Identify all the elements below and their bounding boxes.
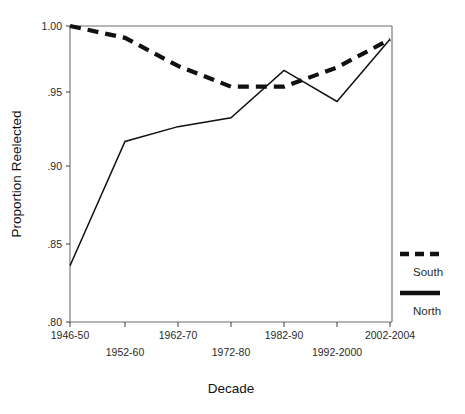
y-tick-label-5: .80	[47, 316, 62, 328]
x-tick-label-1972-80: 1972-80	[212, 346, 251, 358]
x-axis-ticks	[70, 322, 390, 327]
legend-label-north: North	[413, 305, 441, 317]
y-tick-label-1: 1.00	[42, 20, 63, 32]
x-tick-label-2002-2004: 2002-2004	[365, 329, 415, 341]
x-tick-label-1952-60: 1952-60	[106, 346, 145, 358]
x-tick-label-1992-2000: 1992-2000	[312, 346, 362, 358]
chart-legend: South North	[400, 254, 443, 317]
series-line-south	[70, 26, 390, 87]
legend-label-south: South	[413, 266, 443, 278]
line-chart: 1.00 .95 .90 .85 .80 1946-50 1962-70 198…	[0, 0, 465, 414]
plot-frame	[70, 26, 392, 322]
x-axis-title: Decade	[208, 381, 255, 396]
chart-figure: 1.00 .95 .90 .85 .80 1946-50 1962-70 198…	[0, 0, 465, 414]
x-axis-tick-labels: 1946-50 1962-70 1982-90 2002-2004 1952-6…	[51, 329, 416, 358]
y-axis-tick-labels: 1.00 .95 .90 .85 .80	[42, 20, 63, 328]
x-tick-label-1962-70: 1962-70	[159, 329, 198, 341]
y-tick-label-2: .95	[47, 86, 62, 98]
y-axis-title: Proportion Reelected	[9, 111, 24, 238]
x-tick-label-1946-50: 1946-50	[51, 329, 90, 341]
y-axis-ticks	[66, 26, 70, 322]
y-tick-label-3: .90	[47, 160, 62, 172]
y-tick-label-4: .85	[47, 238, 62, 250]
x-tick-label-1982-90: 1982-90	[265, 329, 304, 341]
series-line-north	[70, 39, 390, 265]
